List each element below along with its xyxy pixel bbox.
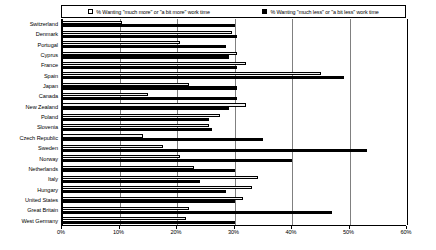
bar-less <box>62 118 209 121</box>
y-axis-labels: SwitzerlandDenmarkPortugalCyprusFranceSp… <box>0 19 58 226</box>
bar-more <box>62 134 143 137</box>
bar-more <box>62 21 122 24</box>
bar-group <box>62 174 407 184</box>
bar-group <box>62 133 407 143</box>
x-axis-tick <box>349 226 350 229</box>
bar-more <box>62 166 194 169</box>
bar-more <box>62 114 220 117</box>
legend-label-less: % Wanting "much less" or "a bit less" wo… <box>270 9 378 15</box>
bar-group <box>62 205 407 215</box>
bar-more <box>62 83 189 86</box>
work-time-preference-chart: % Wanting "much more" or "a bit more" wo… <box>0 0 436 250</box>
x-axis-tick-label: 20% <box>170 229 181 236</box>
y-axis-label: Sweden <box>0 145 58 151</box>
bar-more <box>62 52 237 55</box>
bar-less <box>62 138 263 141</box>
x-axis-tick <box>406 226 407 229</box>
bar-less <box>62 86 237 89</box>
bar-group <box>62 195 407 205</box>
bar-more <box>62 186 252 189</box>
x-axis-tick <box>176 226 177 229</box>
y-axis-label: Czech Republic <box>0 135 58 141</box>
bar-less <box>62 169 235 172</box>
bar-group <box>62 40 407 50</box>
y-axis-label: Portugal <box>0 42 58 48</box>
x-axis-tick <box>291 226 292 229</box>
bar-group <box>62 50 407 60</box>
y-axis-label: West Germany <box>0 218 58 224</box>
bar-less <box>62 211 332 214</box>
y-axis-label: Poland <box>0 114 58 120</box>
bar-more <box>62 31 232 34</box>
y-axis-label: Cyprus <box>0 52 58 58</box>
x-axis-labels: 0%10%20%30%40%50%60% <box>61 229 406 239</box>
gridline-60% <box>407 19 408 225</box>
x-axis-tick-label: 40% <box>285 229 296 236</box>
y-axis-label: United States <box>0 197 58 203</box>
bar-group <box>62 102 407 112</box>
bar-less <box>62 190 226 193</box>
bar-less <box>62 221 235 224</box>
y-axis-label: Netherlands <box>0 166 58 172</box>
y-axis-label: Switzerland <box>0 21 58 27</box>
bar-less <box>62 200 235 203</box>
legend-entry-more: % Wanting "much more" or "a bit more" wo… <box>88 9 210 15</box>
bar-group <box>62 60 407 70</box>
y-axis-label: Slovenia <box>0 124 58 130</box>
bar-less <box>62 66 237 69</box>
y-axis-label: Denmark <box>0 31 58 37</box>
bar-group <box>62 19 407 29</box>
legend-label-more: % Wanting "much more" or "a bit more" wo… <box>96 9 210 15</box>
bar-more <box>62 176 258 179</box>
bar-group <box>62 154 407 164</box>
bar-more <box>62 124 209 127</box>
x-axis-tick-label: 10% <box>113 229 124 236</box>
plot-area <box>61 19 406 226</box>
bar-group <box>62 143 407 153</box>
bar-group <box>62 164 407 174</box>
bar-more <box>62 145 163 148</box>
bar-less <box>62 97 237 100</box>
bar-more <box>62 197 243 200</box>
y-axis-label: Norway <box>0 156 58 162</box>
y-axis-label: Great Britain <box>0 207 58 213</box>
x-axis-tick <box>119 226 120 229</box>
bar-more <box>62 62 246 65</box>
bar-less <box>62 107 229 110</box>
black-square-icon <box>262 9 267 14</box>
bar-group <box>62 81 407 91</box>
bar-less <box>62 180 200 183</box>
bar-group <box>62 71 407 81</box>
bar-group <box>62 123 407 133</box>
bar-less <box>62 149 367 152</box>
bar-more <box>62 103 246 106</box>
bar-group <box>62 216 407 226</box>
y-axis-label: New Zealand <box>0 104 58 110</box>
bar-more <box>62 155 180 158</box>
bar-more <box>62 41 180 44</box>
bar-group <box>62 112 407 122</box>
bar-group <box>62 29 407 39</box>
bar-less <box>62 45 226 48</box>
y-axis-label: Italy <box>0 176 58 182</box>
bar-less <box>62 35 237 38</box>
y-axis-label: Canada <box>0 93 58 99</box>
bar-less <box>62 76 344 79</box>
white-square-icon <box>88 9 93 14</box>
y-axis-label: Spain <box>0 73 58 79</box>
bar-less <box>62 159 292 162</box>
x-axis-tick-label: 60% <box>400 229 411 236</box>
x-axis-tick <box>61 226 62 229</box>
chart-legend: % Wanting "much more" or "a bit more" wo… <box>61 5 406 18</box>
bar-more <box>62 72 321 75</box>
x-axis-tick <box>234 226 235 229</box>
bar-group <box>62 185 407 195</box>
x-axis-tick-label: 0% <box>57 229 65 236</box>
bar-group <box>62 91 407 101</box>
y-axis-label: Japan <box>0 83 58 89</box>
y-axis-label: France <box>0 62 58 68</box>
bar-less <box>62 128 212 131</box>
bar-more <box>62 217 186 220</box>
y-axis-label: Hungary <box>0 187 58 193</box>
bar-more <box>62 93 148 96</box>
